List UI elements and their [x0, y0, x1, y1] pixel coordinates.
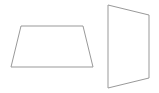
perspective-quadrilateral-shape: [108, 5, 149, 88]
trapezoid-shape: [11, 26, 93, 67]
diagram-canvas: [0, 0, 159, 93]
